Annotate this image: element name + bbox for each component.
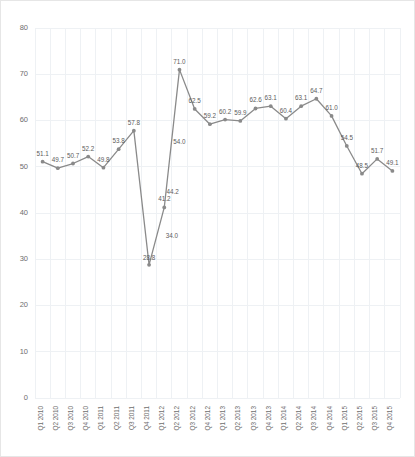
y-tick-label: 40	[20, 208, 28, 217]
chart-annotation: 44.2	[167, 188, 180, 195]
series-marker	[314, 97, 318, 101]
chart-canvas: 01020304050607080 Q1 2010Q2 2010Q3 2010Q…	[1, 1, 415, 457]
data-point-label: 49.8	[97, 156, 110, 163]
x-tick-label: Q2 2013	[234, 406, 242, 431]
data-point-label: 48.5	[356, 162, 369, 169]
x-tick-label: Q4 2011	[143, 406, 151, 430]
data-point-label: 62.5	[189, 97, 202, 104]
x-tick-label: Q1 2015	[341, 406, 349, 431]
y-tick-label: 20	[20, 300, 28, 309]
series-marker	[208, 122, 212, 126]
series-marker	[284, 117, 288, 121]
y-tick-label: 10	[20, 347, 28, 356]
x-tick-label: Q2 2014	[295, 406, 303, 431]
data-point-label: 57.8	[128, 119, 141, 126]
data-point-label: 63.1	[295, 94, 308, 101]
data-point-label: 54.5	[341, 134, 354, 141]
x-tick-label: Q4 2014	[326, 406, 334, 431]
y-tick-label: 70	[20, 69, 28, 78]
data-point-label: 41.2	[158, 195, 171, 202]
series-marker	[193, 107, 197, 111]
x-tick-label: Q2 2012	[173, 406, 181, 431]
data-point-label: 53.8	[113, 137, 126, 144]
x-tick-label: Q3 2011	[128, 406, 136, 430]
x-tick-label: Q4 2015	[386, 406, 394, 431]
data-point-label: 59.9	[234, 109, 247, 116]
data-point-label: 60.2	[219, 108, 232, 115]
y-axis-tick-labels: 01020304050607080	[20, 23, 28, 402]
series-marker	[223, 118, 227, 122]
series-marker	[375, 157, 379, 161]
x-tick-label: Q1 2011	[97, 406, 105, 430]
series-marker	[345, 144, 349, 148]
chart-annotation: 34.0	[166, 232, 179, 239]
data-point-label: 63.1	[265, 94, 278, 101]
data-point-label: 60.4	[280, 107, 293, 114]
x-tick-label: Q2 2011	[113, 406, 121, 430]
x-tick-label: Q3 2010	[67, 406, 75, 431]
y-tick-label: 50	[20, 162, 28, 171]
x-tick-label: Q4 2013	[265, 406, 273, 431]
data-point-label: 71.0	[173, 58, 186, 65]
data-point-label: 51.1	[36, 150, 49, 157]
series-marker	[147, 263, 151, 267]
data-point-label: 62.6	[249, 96, 262, 103]
series-marker	[178, 68, 182, 72]
chart-annotation: 54.0	[173, 138, 186, 145]
series-marker	[41, 160, 45, 164]
x-tick-label: Q2 2015	[356, 406, 364, 431]
chart-annotations: 44.254.034.0	[166, 138, 186, 240]
x-tick-label: Q2 2010	[52, 406, 60, 431]
x-tick-label: Q1 2012	[158, 406, 166, 431]
x-axis-tick-labels: Q1 2010Q2 2010Q3 2010Q4 2010Q1 2011Q2 20…	[37, 406, 395, 431]
y-tick-label: 80	[20, 23, 28, 32]
data-point-label: 52.2	[82, 145, 95, 152]
series-marker	[117, 147, 121, 151]
x-tick-label: Q4 2012	[204, 406, 212, 431]
data-point-label: 61.0	[325, 104, 338, 111]
data-point-label: 59.2	[204, 112, 217, 119]
y-tick-label: 60	[20, 115, 28, 124]
x-tick-label: Q3 2014	[310, 406, 318, 431]
line-chart: 01020304050607080 Q1 2010Q2 2010Q3 2010Q…	[0, 0, 415, 457]
series-marker	[102, 166, 106, 170]
data-point-label: 28.8	[143, 254, 156, 261]
x-tick-label: Q3 2012	[189, 406, 197, 431]
data-point-label: 51.7	[371, 147, 384, 154]
series-marker	[254, 107, 258, 111]
series-marker	[299, 104, 303, 108]
x-tick-label: Q3 2015	[371, 406, 379, 431]
series-marker	[360, 172, 364, 176]
x-tick-label: Q4 2010	[82, 406, 90, 431]
x-tick-label: Q1 2014	[280, 406, 288, 431]
data-point-label: 49.7	[52, 156, 65, 163]
series-marker	[238, 119, 242, 123]
series-marker	[269, 104, 273, 108]
data-point-label: 49.1	[386, 159, 399, 166]
series-marker	[330, 114, 334, 118]
x-tick-label: Q1 2010	[37, 406, 45, 431]
data-point-label: 64.7	[310, 87, 323, 94]
y-tick-label: 0	[24, 393, 28, 402]
series-marker	[132, 129, 136, 133]
data-point-label: 50.7	[67, 152, 80, 159]
y-tick-label: 30	[20, 254, 28, 263]
x-tick-label: Q1 2013	[219, 406, 227, 431]
series-marker	[56, 166, 60, 170]
series-marker	[71, 162, 75, 166]
x-tick-label: Q3 2013	[250, 406, 258, 431]
series-marker	[391, 169, 395, 173]
series-marker	[162, 206, 166, 210]
series-marker	[86, 155, 90, 159]
